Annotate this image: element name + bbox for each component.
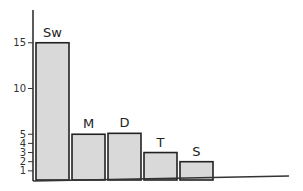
- bar-d: [108, 133, 141, 180]
- y-tick-label: 15: [13, 37, 26, 48]
- y-tick-label: 10: [13, 83, 26, 94]
- bar-label-sw: Sw: [43, 25, 62, 40]
- bars-group: [36, 43, 213, 180]
- y-tick-label: 5: [20, 129, 26, 140]
- y-ticks-group: 123451015: [13, 37, 33, 176]
- bar-t: [144, 153, 177, 180]
- bar-label-m: M: [83, 116, 94, 131]
- bar-label-s: S: [192, 144, 200, 159]
- bar-m: [72, 134, 105, 180]
- bar-chart: SwMDTS 123451015: [0, 0, 303, 191]
- bar-sw: [36, 43, 69, 180]
- bar-label-d: D: [119, 115, 129, 130]
- bar-label-t: T: [156, 135, 165, 150]
